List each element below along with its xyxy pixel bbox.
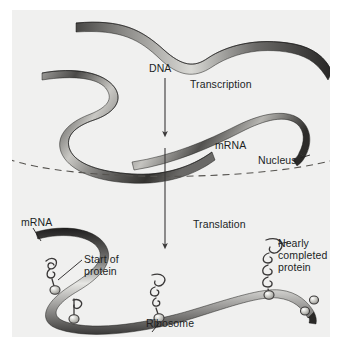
ribosome-2: [69, 299, 82, 323]
dna-strand-upper: [76, 22, 330, 80]
label-transcription: Transcription: [190, 79, 252, 91]
label-translation: Translation: [193, 219, 246, 231]
label-nearly-completed-line1: Nearly: [278, 238, 309, 250]
label-nearly-completed-line2: completed: [278, 250, 327, 262]
ribosome-3: [151, 274, 165, 322]
free-subunit-1: [310, 296, 319, 304]
label-mrna-nucleus: mRNA: [215, 140, 246, 152]
free-subunit-2: [301, 307, 310, 315]
figure-root: DNA Transcription mRNA Nucleus mRNA Tran…: [0, 0, 341, 351]
label-mrna-cytoplasm: mRNA: [21, 217, 52, 229]
ribosome-1: [46, 258, 60, 294]
leader-start-of-protein: [58, 260, 82, 280]
label-nucleus: Nucleus: [258, 155, 297, 167]
diagram-panel: DNA Transcription mRNA Nucleus mRNA Tran…: [12, 10, 330, 337]
label-start-of-protein-line1: Start of: [84, 254, 119, 266]
label-nearly-completed-line3: protein: [278, 262, 311, 274]
label-start-of-protein-line2: protein: [84, 266, 117, 278]
label-dna: DNA: [149, 63, 171, 75]
diagram-canvas: [12, 10, 330, 337]
label-ribosome: Ribosome: [146, 318, 194, 330]
